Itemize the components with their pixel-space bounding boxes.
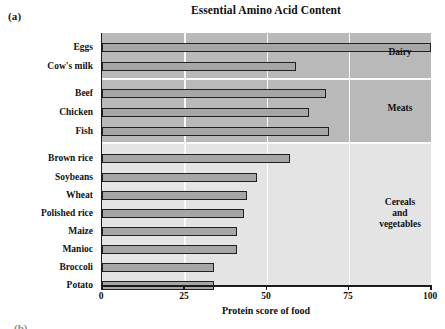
x-tick-25 [183, 285, 185, 290]
bar-manioc [102, 245, 237, 254]
x-tick-label-50: 50 [261, 291, 271, 301]
figure-panel-a: (a) Essential Amino Acid Content [0, 0, 445, 329]
y-label-maize: Maize [68, 226, 93, 236]
x-tick-0 [101, 285, 103, 290]
group-label-meats: Meats [355, 103, 445, 114]
y-label-cows-milk: Cow's milk [47, 61, 93, 71]
x-axis-title: Protein score of food [101, 305, 431, 316]
y-label-wheat: Wheat [66, 190, 93, 200]
y-label-chicken: Chicken [59, 107, 93, 117]
y-label-fish: Fish [76, 126, 93, 136]
x-tick-100 [430, 285, 432, 290]
panel-letter: (a) [8, 10, 21, 22]
plot-area: Dairy Meats Cereals and vegetables [101, 33, 431, 285]
x-tick-label-0: 0 [99, 291, 104, 301]
y-label-beef: Beef [75, 88, 93, 98]
group-label-line-1: Cereals [385, 197, 415, 207]
bar-polished-rice [102, 209, 244, 218]
y-label-broccoli: Broccoli [59, 262, 93, 272]
group-label-dairy: Dairy [355, 47, 445, 58]
bar-fish [102, 127, 329, 136]
bar-maize [102, 227, 237, 236]
group-label-cereals-vegetables: Cereals and vegetables [355, 197, 445, 230]
y-axis-labels: Eggs Cow's milk Beef Chicken Fish Brown … [0, 33, 97, 285]
y-label-soybeans: Soybeans [55, 172, 93, 182]
bar-cows-milk [102, 62, 296, 71]
x-tick-label-100: 100 [423, 291, 437, 301]
gridline-75 [349, 33, 351, 285]
x-tick-label-25: 25 [179, 291, 189, 301]
panel-letter-next: (b) [14, 322, 27, 329]
x-tick-75 [348, 285, 350, 290]
group-label-line-2: and [392, 208, 407, 218]
bar-broccoli [102, 263, 214, 272]
bar-beef [102, 89, 326, 98]
y-label-potato: Potato [67, 280, 93, 290]
bar-wheat [102, 191, 247, 200]
y-label-manioc: Manioc [62, 244, 93, 254]
y-label-eggs: Eggs [73, 42, 93, 52]
bar-brown-rice [102, 154, 290, 163]
x-tick-label-75: 75 [343, 291, 353, 301]
group-label-line-3: vegetables [379, 219, 421, 229]
chart-title: Essential Amino Acid Content [101, 4, 431, 16]
bar-soybeans [102, 173, 257, 182]
y-label-brown-rice: Brown rice [48, 153, 93, 163]
x-tick-50 [266, 285, 268, 290]
y-label-polished-rice: Polished rice [41, 208, 93, 218]
bar-chicken [102, 108, 309, 117]
